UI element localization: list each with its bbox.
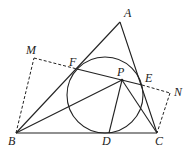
label-D: D	[101, 134, 111, 148]
label-M: M	[25, 43, 37, 57]
label-E: E	[144, 71, 153, 85]
label-A: A	[123, 6, 132, 20]
label-P: P	[116, 65, 125, 79]
dashed-BM	[16, 58, 34, 133]
dashed-EN	[142, 85, 170, 93]
label-F: F	[68, 55, 77, 69]
dashed-NC	[157, 93, 170, 133]
segment-FE	[77, 69, 142, 85]
label-C: C	[155, 134, 164, 148]
segment-AB	[16, 22, 120, 133]
segment-PD	[109, 80, 122, 133]
label-B: B	[8, 134, 16, 148]
point-P-dot	[121, 79, 124, 82]
geometry-diagram: A B C D E F P M N	[0, 0, 194, 161]
segment-BP	[16, 80, 122, 133]
diagram-svg: A B C D E F P M N	[0, 0, 194, 161]
label-N: N	[173, 85, 183, 99]
